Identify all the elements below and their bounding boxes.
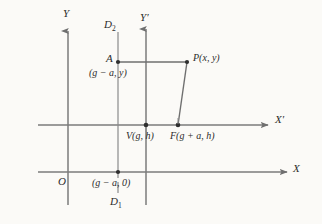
segment-p-to-f [178,62,187,125]
x-axis-label: X [293,163,300,174]
point-a-coords-label: (g − a, y) [89,68,127,78]
coordinate-geometry-figure: Y X Y′ X′ O D2 D1 A (g − a, y) P(x, y) V… [0,0,322,224]
point-p-label: P(x, y) [193,53,220,63]
x-prime-axis-label: X′ [275,114,284,125]
point-v-dot [144,123,149,128]
directrix-top-label: D2 [104,19,116,33]
directrix-bottom-label: D1 [110,196,122,210]
foot-coords-label: (g − a, 0) [92,178,130,188]
point-v-label: V(g, h) [126,131,154,141]
y-axis-label: Y [63,8,69,19]
origin-label: O [58,176,66,187]
directrix-bottom-subscript: 1 [118,201,122,210]
directrix-top-subscript: 2 [112,24,116,33]
point-a-label: A [106,53,113,64]
y-prime-mark: ′ [146,11,148,23]
point-f-label: F(g + a, h) [170,131,215,141]
figure-vector-canvas [0,0,322,224]
x-prime-mark: ′ [282,113,284,125]
point-p-dot [185,60,189,64]
y-prime-axis-label: Y′ [140,12,149,23]
point-a-dot [116,60,120,64]
point-foot-dot [116,170,120,174]
